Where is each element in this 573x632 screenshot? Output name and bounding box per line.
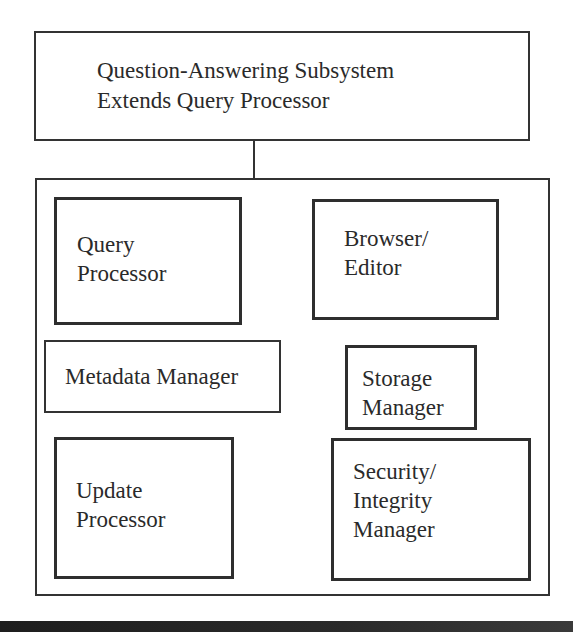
security-integrity-manager-label: Security/ Integrity Manager (353, 457, 436, 544)
browser-editor-label: Browser/ Editor (344, 224, 428, 282)
top-box-line-1: Question-Answering Subsystem (97, 56, 394, 85)
connector-line (253, 140, 255, 179)
query-processor-label: Query Processor (77, 230, 166, 288)
storage-manager-label: Storage Manager (362, 364, 444, 422)
bottom-edge-band (0, 621, 573, 632)
metadata-manager-label: Metadata Manager (65, 362, 238, 391)
update-processor-label: Update Processor (76, 476, 165, 534)
top-box-line-2: Extends Query Processor (97, 86, 330, 115)
